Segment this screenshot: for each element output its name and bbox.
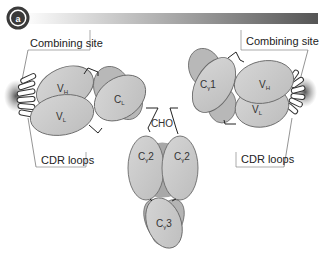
svg-text:Combining site: Combining site	[30, 37, 103, 49]
cho-label: CHO	[151, 118, 173, 129]
domain-cg2-left	[128, 136, 164, 200]
antibody-diagram: a Combining site Combining site CL VH	[0, 0, 323, 261]
header-bar: a	[8, 8, 318, 28]
domain-cg2-right	[162, 136, 198, 200]
gradient-bar	[22, 13, 318, 24]
svg-text:CDR loops: CDR loops	[241, 153, 295, 165]
svg-text:CDR loops: CDR loops	[41, 154, 95, 166]
svg-text:Combining site: Combining site	[246, 35, 319, 47]
fc-cg2-pair: Cγ2 Cγ2	[128, 136, 198, 200]
domain-cg3: Cγ3	[137, 193, 191, 253]
